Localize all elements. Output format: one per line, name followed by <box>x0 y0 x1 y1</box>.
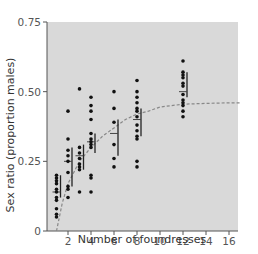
x-tick-label: 16 <box>222 235 236 247</box>
y-tick-label: 0 <box>34 225 41 237</box>
sex-ratio-chart: 00.250.500.75 246810121416 Number of fou… <box>0 0 258 254</box>
y-tick-label: 0.50 <box>18 86 41 98</box>
y-axis-ticks: 00.250.500.75 <box>18 16 47 237</box>
x-tick-label: 2 <box>65 235 72 247</box>
y-axis-label: Sex ratio (proportion males) <box>4 58 17 213</box>
plot-area <box>47 22 238 231</box>
y-tick-label: 0.25 <box>18 155 41 167</box>
x-axis-label: Number of foundresses <box>78 233 207 246</box>
y-tick-label: 0.75 <box>18 16 41 28</box>
